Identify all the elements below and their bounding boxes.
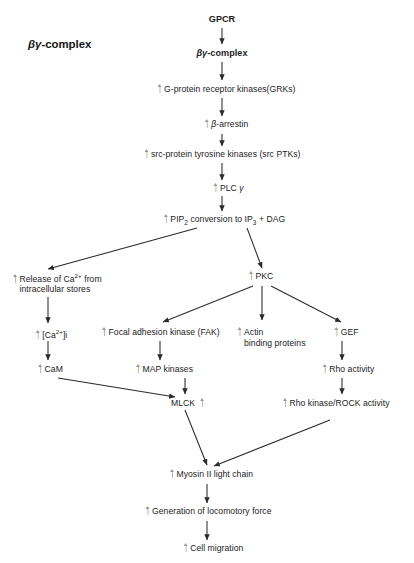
up-arrow-icon [212, 183, 218, 192]
up-arrow-icon [12, 274, 18, 283]
up-arrow-icon [183, 543, 189, 552]
up-arrow-icon [145, 506, 151, 515]
node-gpcr: GPCR [209, 14, 235, 25]
up-arrow-icon [282, 398, 288, 407]
node-pip2-conversion: PIP2 conversion to IP3 + DAG [163, 214, 285, 228]
node-rho-activity: Rho activity [322, 364, 375, 375]
edge-pkc-to-gef [271, 286, 341, 322]
up-arrow-icon [37, 364, 43, 373]
node-gef: GEF [333, 327, 358, 338]
edge-pip2-to-ca-release [48, 228, 197, 269]
node-cam: CaM [37, 364, 63, 375]
edge-mlck-to-myosin [185, 410, 207, 465]
up-arrow-icon [163, 214, 169, 223]
side-title-bg-complex: βγ-complex [28, 38, 91, 50]
up-arrow-icon [143, 149, 149, 158]
up-arrow-icon [199, 398, 205, 407]
node-ca-release: Release of Ca2+ from intracellular store… [12, 271, 102, 295]
up-arrow-icon [204, 119, 210, 128]
node-myosin-ii-light-chain: Myosin II light chain [169, 469, 253, 480]
edge-rock-to-myosin [214, 420, 330, 466]
edge-cam-to-mlck [58, 378, 175, 397]
node-fak: Focal adhesion kinase (FAK) [101, 327, 220, 338]
node-src-ptks: src-protein tyrosine kinases (src PTKs) [143, 149, 300, 160]
node-locomotory-force: Generation of locomotory force [145, 506, 272, 517]
up-arrow-icon [101, 327, 107, 336]
edge-pkc-to-fak [163, 286, 253, 322]
node-ca-i: [Ca2+]i [35, 327, 68, 340]
node-beta-arrestin: β-arrestin [204, 119, 248, 130]
node-plc-gamma: PLC γ [212, 183, 243, 194]
up-arrow-icon [333, 327, 339, 336]
node-map-kinases: MAP kinases [135, 364, 193, 375]
node-grks: G-protein receptor kinases(GRKs) [156, 84, 295, 95]
up-arrow-icon [135, 364, 141, 373]
node-bg-complex: βγ-complex [196, 48, 247, 59]
up-arrow-icon [156, 84, 162, 93]
node-mlck: MLCK [171, 398, 205, 409]
node-pkc: PKC [248, 271, 273, 282]
node-actin-binding-proteins: Actin binding proteins [237, 327, 306, 348]
up-arrow-icon [237, 327, 243, 336]
pathway-diagram: βγ-complex GPCR βγ-complex G-protein rec… [0, 0, 414, 563]
node-rock-activity: Rho kinase/ROCK activity [282, 398, 390, 409]
up-arrow-icon [169, 469, 175, 478]
edge-pip2-to-pkc [247, 228, 262, 268]
up-arrow-icon [248, 271, 254, 280]
up-arrow-icon [35, 330, 41, 339]
up-arrow-icon [322, 364, 328, 373]
node-cell-migration: Cell migration [183, 543, 244, 554]
